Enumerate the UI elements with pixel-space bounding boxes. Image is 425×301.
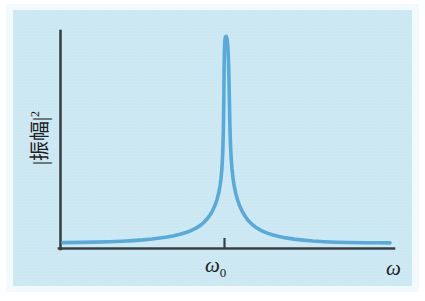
y-axis-label-exponent: 2 bbox=[28, 111, 42, 117]
y-axis-label-text: |振幅| bbox=[29, 117, 51, 165]
figure-root: |振幅|2 ω0 ω bbox=[0, 0, 425, 301]
omega-symbol: ω bbox=[205, 253, 220, 277]
x-axis-tick-label-omega-zero: ω0 bbox=[205, 255, 226, 279]
x-axis-title: ω bbox=[386, 258, 401, 279]
y-axis-label-container: |振幅|2 bbox=[18, 78, 58, 198]
y-axis-label: |振幅|2 bbox=[24, 111, 53, 165]
resonance-curve bbox=[63, 36, 390, 243]
omega-subscript: 0 bbox=[220, 265, 227, 280]
